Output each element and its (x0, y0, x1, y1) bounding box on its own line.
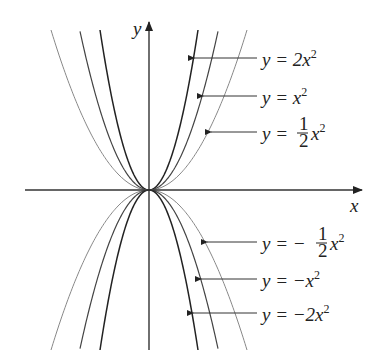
label-neg-2x2: y = −2x2 (260, 302, 330, 325)
x-axis-label: x (349, 195, 359, 216)
svg-text:y = −x2: y = −x2 (260, 268, 320, 291)
svg-text:y = 2x2: y = 2x2 (260, 47, 317, 70)
label-half-x2: y = 1 2 x2 (260, 113, 325, 151)
parabola-chart: y x y = 2x2 y = x2 y = 1 2 x2 y = − 1 2 … (0, 0, 383, 361)
svg-text:y =: y = (260, 123, 288, 144)
svg-text:y = −: y = − (260, 233, 306, 254)
svg-text:x2: x2 (329, 231, 344, 254)
svg-text:2: 2 (318, 240, 328, 261)
label-2x2: y = 2x2 (260, 47, 317, 70)
svg-text:y = −2x2: y = −2x2 (260, 302, 330, 325)
label-neg-half-x2: y = − 1 2 x2 (260, 223, 344, 261)
svg-text:y = x2: y = x2 (260, 85, 307, 108)
y-axis-label: y (131, 18, 142, 39)
label-x2: y = x2 (260, 85, 307, 108)
svg-text:x2: x2 (310, 121, 325, 144)
label-neg-x2: y = −x2 (260, 268, 320, 291)
svg-text:2: 2 (299, 130, 309, 151)
